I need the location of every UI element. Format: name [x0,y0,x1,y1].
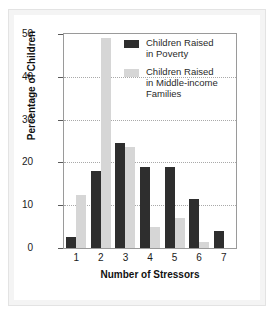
legend-label-middle-income-line2: in Middle-income [146,77,236,88]
legend-label-middle-income: Children Raised in Middle-income Familie… [146,66,236,99]
bar [165,167,175,248]
y-tick-mark [58,77,63,78]
y-tick-mark [58,205,63,206]
x-tick-label: 3 [112,252,138,263]
legend-item-poverty: Children Raised in Poverty [124,37,236,59]
y-tick-mark [58,34,63,35]
bar-group [66,34,86,248]
x-axis-title: Number of Stressors [63,269,237,280]
bar [199,242,209,248]
bar [66,237,76,248]
legend-label-poverty-line1: Children Raised [146,37,236,48]
x-tick-label: 2 [88,252,114,263]
x-tick-label: 4 [137,252,163,263]
legend-item-middle-income: Children Raised in Middle-income Familie… [124,66,236,99]
legend-swatch-icon-poverty [124,40,139,48]
x-tick-label: 7 [211,252,237,263]
bar [214,231,224,248]
bar [150,227,160,248]
bar [189,199,199,248]
x-tick-label: 5 [162,252,188,263]
y-axis-title: Percentage of Children [26,6,37,166]
legend-swatch-icon-middle-income [124,69,139,77]
y-tick-mark [58,162,63,163]
bar [91,171,101,248]
bar [115,143,125,248]
x-tick-label: 1 [63,252,89,263]
y-tick-mark [58,248,63,249]
bar [76,195,86,249]
y-tick-mark [58,120,63,121]
bar [125,147,135,248]
x-tick-label: 6 [186,252,212,263]
legend-label-middle-income-line1: Children Raised [146,66,236,77]
legend-label-poverty: Children Raised in Poverty [146,37,236,59]
bar-chart: 01020304050 Percentage of Children 12345… [0,0,274,315]
bar-group [91,34,111,248]
legend-label-middle-income-line3: Families [146,88,236,99]
bar [140,167,150,248]
bar [175,218,185,248]
legend-label-poverty-line2: in Poverty [146,48,236,59]
bar [101,38,111,248]
y-tick-label: 10 [9,200,33,210]
legend: Children Raised in Poverty Children Rais… [124,37,236,106]
y-tick-label: 0 [9,243,33,253]
